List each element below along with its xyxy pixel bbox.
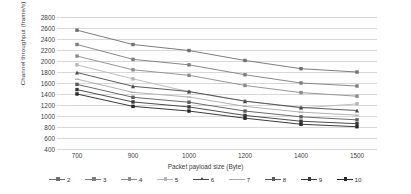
data-point-2: [299, 67, 302, 70]
legend-swatch-icon-3: [85, 176, 101, 183]
legend-label-10: 10: [355, 176, 362, 183]
data-point-8: [355, 118, 358, 121]
data-point-8: [131, 96, 134, 99]
y-tick-label: 1600: [7, 80, 55, 87]
data-point-7: [243, 106, 247, 107]
x-tick-label: 900: [103, 152, 163, 159]
data-point-3: [243, 73, 246, 76]
data-point-8: [243, 109, 246, 112]
legend-label-7: 7: [247, 176, 250, 183]
gridline: [57, 149, 377, 150]
data-point-3: [187, 63, 190, 66]
y-tick-label: 2200: [7, 47, 55, 54]
data-point-9: [299, 120, 302, 123]
legend-label-2: 2: [67, 176, 70, 183]
x-tick-label: 1200: [215, 152, 275, 159]
legend-item-5[interactable]: 5: [157, 176, 178, 183]
legend-swatch-icon-9: [301, 176, 317, 183]
legend-label-3: 3: [103, 176, 106, 183]
data-point-4: [131, 68, 134, 71]
legend-swatch-icon-4: [121, 176, 137, 183]
data-point-10: [355, 125, 358, 128]
data-point-5: [131, 77, 134, 80]
y-tick-label: 800: [7, 124, 55, 131]
data-point-5: [355, 102, 358, 105]
y-tick-label: 2400: [7, 36, 55, 43]
legend-item-7[interactable]: 7: [229, 176, 250, 183]
data-point-7: [299, 112, 303, 113]
series-line-7: [77, 79, 357, 115]
data-point-4: [75, 54, 78, 57]
data-point-5: [75, 63, 78, 66]
y-tick-label: 600: [7, 135, 55, 142]
legend-item-4[interactable]: 4: [121, 176, 142, 183]
legend-swatch-icon-2: [49, 176, 65, 183]
y-tick-label: 1000: [7, 113, 55, 120]
data-point-4: [355, 95, 358, 98]
y-tick-label: 2800: [7, 14, 55, 21]
series-line-2: [77, 30, 357, 72]
chart-figure: Channel throughput (frame/s) 28002600240…: [0, 0, 411, 194]
legend-swatch-icon-10: [337, 176, 353, 183]
legend-item-9[interactable]: 9: [301, 176, 322, 183]
data-point-10: [243, 117, 246, 120]
data-point-8: [299, 115, 302, 118]
data-point-2: [355, 70, 358, 73]
data-point-7: [75, 79, 79, 80]
data-point-3: [75, 43, 78, 46]
data-point-4: [243, 84, 246, 87]
series-line-6: [77, 73, 357, 111]
data-point-3: [355, 84, 358, 87]
data-point-8: [75, 83, 78, 86]
x-tick-label: 1500: [327, 152, 387, 159]
data-point-8: [187, 101, 190, 104]
data-point-10: [299, 123, 302, 126]
legend-label-5: 5: [175, 176, 178, 183]
data-point-3: [299, 81, 302, 84]
legend-swatch-icon-8: [265, 176, 281, 183]
legend-swatch-icon-6: [193, 176, 209, 183]
series-line-4: [77, 56, 357, 96]
data-point-2: [187, 49, 190, 52]
y-tick-label: 2600: [7, 25, 55, 32]
data-point-4: [299, 91, 302, 94]
data-point-9: [75, 88, 78, 91]
data-point-4: [187, 74, 190, 77]
data-point-7: [355, 115, 359, 116]
y-tick-label: 1200: [7, 102, 55, 109]
legend-item-3[interactable]: 3: [85, 176, 106, 183]
data-point-10: [187, 109, 190, 112]
data-point-10: [131, 105, 134, 108]
legend-item-10[interactable]: 10: [337, 176, 361, 183]
x-tick-label: 1000: [159, 152, 219, 159]
x-tick-label: 700: [47, 152, 107, 159]
data-point-9: [355, 122, 358, 125]
legend-label-6: 6: [211, 176, 214, 183]
legend-label-8: 8: [283, 176, 286, 183]
data-point-10: [75, 92, 78, 95]
legend-item-6[interactable]: 6: [193, 176, 214, 183]
data-point-2: [75, 29, 78, 32]
legend-label-4: 4: [139, 176, 142, 183]
legend-item-2[interactable]: 2: [49, 176, 70, 183]
data-point-2: [131, 43, 134, 46]
x-axis-label: Packet payload size (Byte): [0, 163, 411, 170]
legend-label-9: 9: [319, 176, 322, 183]
series-layer: [57, 17, 377, 149]
data-point-7: [131, 92, 135, 93]
legend-item-8[interactable]: 8: [265, 176, 286, 183]
data-point-9: [131, 100, 134, 103]
chart-legend: 2345678910: [0, 176, 411, 183]
x-tick-label: 1400: [271, 152, 331, 159]
series-line-3: [77, 45, 357, 87]
data-point-2: [243, 59, 246, 62]
data-point-7: [187, 97, 191, 98]
data-point-9: [187, 105, 190, 108]
y-tick-label: 1400: [7, 91, 55, 98]
data-point-3: [131, 58, 134, 61]
legend-swatch-icon-5: [157, 176, 173, 183]
y-tick-label: 2000: [7, 58, 55, 65]
legend-swatch-icon-7: [229, 176, 245, 183]
y-tick-label: 1800: [7, 69, 55, 76]
